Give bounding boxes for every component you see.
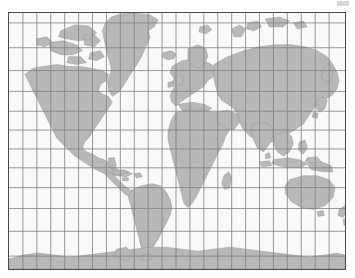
map-panel[interactable] [8,12,346,270]
tasmania-shape [317,210,324,216]
sri-lanka-shape [265,153,270,159]
corner-artifact [337,1,349,6]
world-map-figure [0,0,355,278]
map-canvas[interactable] [9,13,345,269]
